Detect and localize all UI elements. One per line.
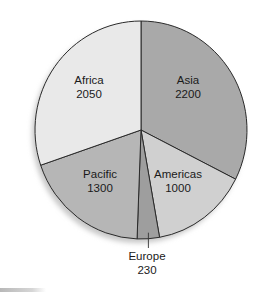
slice-label-africa: Africa	[74, 74, 104, 86]
decorative-bar	[0, 288, 46, 292]
pie-slices	[35, 21, 247, 239]
slice-label-asia: Asia	[177, 74, 200, 86]
slice-value-americas: 1000	[165, 182, 191, 194]
slice-label-pacific: Pacific	[83, 168, 117, 180]
slice-label-americas: Americas	[154, 168, 202, 180]
pie-chart: Asia2200Americas1000Europe230Pacific1300…	[0, 0, 265, 297]
slice-value-europe: 230	[137, 264, 156, 276]
slice-value-pacific: 1300	[87, 182, 113, 194]
slice-label-europe: Europe	[128, 250, 165, 262]
slice-value-asia: 2200	[175, 88, 201, 100]
slice-value-africa: 2050	[76, 88, 102, 100]
